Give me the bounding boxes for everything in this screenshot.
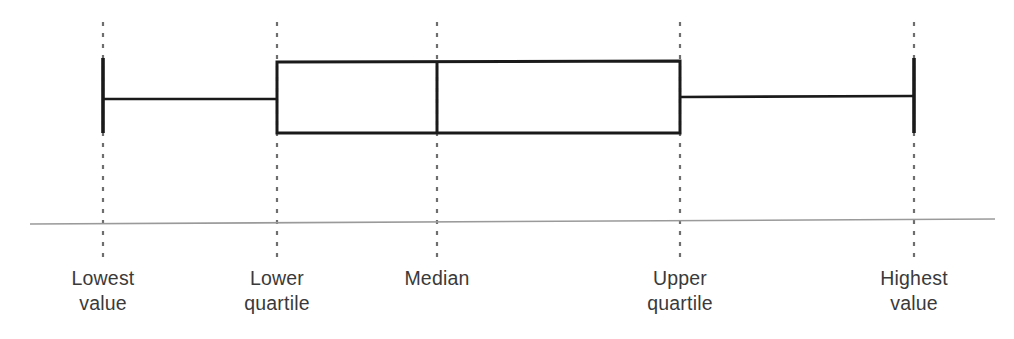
label-lowest-value: Lowest value xyxy=(72,266,135,316)
box-outline xyxy=(277,61,680,133)
axis-line xyxy=(30,219,995,224)
box-plot-graphic xyxy=(0,0,1014,339)
whisker-line-high xyxy=(679,96,914,97)
label-highest-value: Highest value xyxy=(880,266,948,316)
interquartile-box xyxy=(277,61,680,133)
label-lower-quartile: Lower quartile xyxy=(244,266,310,316)
box-plot-figure: Lowest value Lower quartile Median Upper… xyxy=(0,0,1014,339)
label-upper-quartile: Upper quartile xyxy=(647,266,713,316)
label-median: Median xyxy=(404,266,469,291)
whiskers-group xyxy=(103,58,914,133)
guide-lines-group xyxy=(103,22,914,260)
